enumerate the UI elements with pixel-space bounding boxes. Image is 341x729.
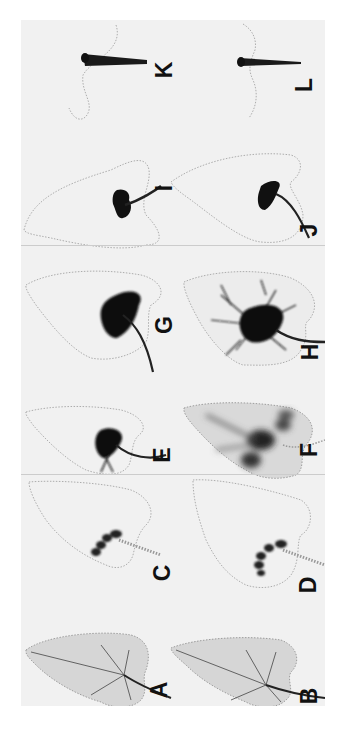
label-e: E bbox=[151, 443, 175, 467]
figure-panel: K L I J G H E F C D A B bbox=[21, 20, 325, 706]
label-j: J bbox=[298, 218, 322, 242]
panel-k bbox=[69, 25, 147, 119]
panel-l bbox=[237, 24, 301, 118]
label-i: I bbox=[153, 176, 177, 200]
label-l: L bbox=[293, 73, 317, 97]
panel-g bbox=[26, 271, 161, 372]
label-b: B bbox=[298, 684, 322, 708]
panel-d bbox=[193, 480, 325, 588]
leaf-autoradiographs bbox=[21, 20, 325, 706]
panel-j bbox=[171, 154, 309, 243]
label-g: G bbox=[153, 313, 177, 337]
label-d: D bbox=[297, 573, 321, 597]
label-h: H bbox=[299, 340, 323, 364]
panel-i bbox=[24, 161, 161, 248]
label-a: A bbox=[148, 678, 172, 702]
panel-e bbox=[26, 406, 166, 474]
label-f: F bbox=[298, 438, 322, 462]
panel-c bbox=[29, 481, 161, 567]
label-c: C bbox=[151, 561, 175, 585]
label-k: K bbox=[153, 58, 177, 82]
